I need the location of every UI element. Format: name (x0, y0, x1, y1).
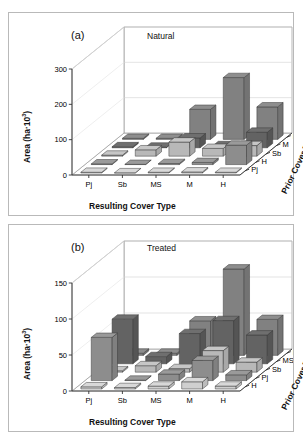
svg-text:M: M (186, 180, 192, 189)
svg-text:Sb: Sb (118, 396, 127, 405)
svg-text:Pj: Pj (262, 373, 269, 382)
svg-text:H: H (220, 396, 225, 405)
svg-text:100: 100 (54, 315, 67, 324)
bar-3d (135, 145, 161, 156)
x-axis-title-a: Resulting Cover Type (89, 201, 176, 211)
panel-treated: 050100150PjSbMSMHHPjSbMSM (b) Treated Ar… (8, 224, 294, 432)
bar-3d (226, 370, 252, 380)
bar-3d (236, 358, 262, 372)
bar-3d (192, 356, 218, 381)
bar-3d (81, 382, 107, 389)
bar-3d (169, 138, 195, 157)
panel-letter-b: (b) (71, 241, 84, 253)
svg-text:MS: MS (282, 356, 293, 365)
bar-3d (148, 382, 174, 389)
panel-subtitle-natural: Natural (147, 31, 174, 41)
bar-3d (182, 377, 208, 389)
svg-text:H: H (220, 180, 225, 189)
bar-3d (215, 382, 241, 389)
panel-subtitle-treated: Treated (147, 243, 176, 253)
bar-3d (91, 333, 117, 381)
bar-3d (202, 144, 228, 156)
svg-text:0: 0 (63, 387, 67, 396)
y-axis-title-b: Area (ha·103) (21, 328, 32, 380)
svg-text:Pj: Pj (85, 180, 92, 189)
svg-text:200: 200 (54, 100, 67, 109)
bar-3d (158, 370, 184, 381)
svg-text:Pj: Pj (251, 165, 258, 174)
y-axis-title-a: Area (ha·103) (21, 111, 32, 163)
svg-text:H: H (251, 381, 256, 390)
svg-text:M: M (282, 140, 288, 149)
bar-3d (135, 361, 161, 372)
bar-3d (192, 158, 218, 164)
svg-text:Pj: Pj (85, 396, 92, 405)
svg-text:0: 0 (63, 171, 67, 180)
svg-text:50: 50 (59, 351, 67, 360)
svg-text:300: 300 (54, 65, 67, 74)
svg-text:Sb: Sb (272, 149, 281, 158)
svg-text:Sb: Sb (272, 365, 281, 374)
bar-3d (114, 383, 140, 389)
bar-3d (226, 141, 252, 165)
panel-natural: 0100200300PjSbMSMHPjHSbMMS (a) Natural A… (8, 12, 294, 216)
figure-root: 0100200300PjSbMSMHPjHSbMMS (a) Natural A… (0, 0, 303, 444)
chart-canvas-treated: 050100150PjSbMSMHHPjSbMSM (9, 225, 293, 431)
svg-text:100: 100 (54, 135, 67, 144)
panel-letter-a: (a) (71, 29, 84, 41)
svg-text:150: 150 (54, 279, 67, 288)
svg-text:MS: MS (150, 180, 161, 189)
svg-text:Sb: Sb (118, 180, 127, 189)
chart-canvas-natural: 0100200300PjSbMSMHPjHSbMMS (9, 13, 293, 215)
svg-text:M: M (186, 396, 192, 405)
svg-text:MS: MS (150, 396, 161, 405)
svg-text:H: H (262, 157, 267, 166)
bar-3d (223, 73, 249, 139)
x-axis-title-b: Resulting Cover Type (89, 417, 176, 427)
